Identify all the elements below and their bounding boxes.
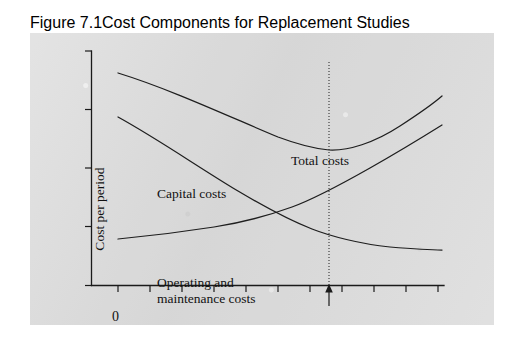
curve-capital-costs: [118, 117, 442, 250]
curve-operating-maintenance-costs: [118, 125, 442, 239]
figure-panel: Total costs Capital costs Operating and …: [30, 33, 494, 325]
series-label-total-costs: Total costs: [291, 153, 349, 168]
page-title: Cost Components for Replacement Studies: [102, 14, 410, 32]
curve-total-costs: [118, 73, 442, 150]
y-axis-ticks: [85, 51, 92, 286]
figure-number: Figure 7.1: [30, 14, 102, 32]
figure-caption: Figure 7.1 Cost Components for Replaceme…: [30, 14, 490, 30]
series-label-capital-costs: Capital costs: [157, 186, 226, 201]
y-axis-label: Cost per period: [92, 134, 108, 284]
origin-label: 0: [112, 309, 119, 324]
series-label-operating-maintenance-costs: Operating and maintenance costs: [157, 275, 287, 307]
economic-life-arrow: [325, 284, 333, 306]
